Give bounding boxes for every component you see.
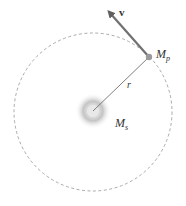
radius-label: r	[127, 79, 131, 90]
star-mass-label: Ms	[114, 116, 128, 132]
planet	[146, 54, 152, 60]
planet-mass-label: Mp	[155, 47, 170, 63]
orbit-diagram: v Mp r Ms	[0, 0, 186, 206]
radius-line	[93, 57, 149, 111]
velocity-arrow	[110, 13, 149, 57]
velocity-label: v	[119, 6, 125, 18]
